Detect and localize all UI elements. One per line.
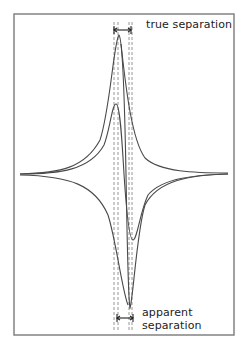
baseline-tail-curve	[20, 175, 128, 305]
apparent-separation-marker	[117, 314, 133, 322]
apparent-separation-label-line1: apparent	[142, 307, 193, 319]
true-separation-marker	[114, 26, 131, 34]
true-separation-label: true separation	[146, 19, 232, 31]
separation-diagram	[0, 0, 248, 348]
upper-tail-curve	[121, 44, 228, 173]
apparent-separation-label-line2: separation	[142, 320, 202, 332]
